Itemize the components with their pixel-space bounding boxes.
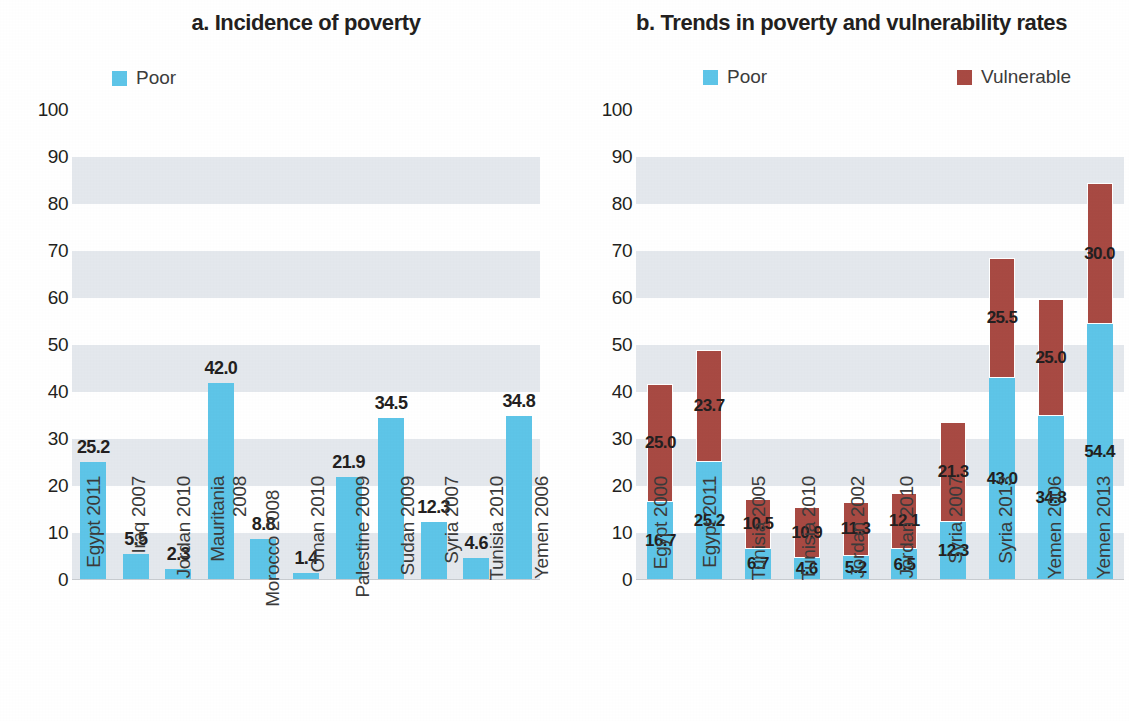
x-axis-label: Morocco 2008 <box>262 490 284 607</box>
y-axis-tick: 30 <box>612 428 632 450</box>
x-axis-label: Tunisia 2010 <box>798 476 820 581</box>
y-axis-tick: 60 <box>48 287 68 309</box>
x-axis-label: Tunisia 2010 <box>486 476 508 581</box>
x-axis-label: Jordan 2010 <box>896 476 918 578</box>
y-axis-tick: 40 <box>48 381 68 403</box>
x-label-slot: Yemen 2013 <box>1080 470 1129 620</box>
y-axis-tick: 0 <box>622 569 632 591</box>
bar-value-label-vulnerable: 25.0 <box>1035 348 1066 368</box>
x-axis-label: Egypt 2011 <box>83 476 105 568</box>
panel-a-incidence-of-poverty: a. Incidence of poverty Poor 10090807060… <box>0 0 564 721</box>
x-label-slot: Jordan 2010 <box>882 470 931 620</box>
panel-a-legend: Poor <box>0 66 564 90</box>
legend-swatch-vulnerable-icon <box>957 70 972 85</box>
legend-label-poor: Poor <box>136 67 176 89</box>
panel-a-y-axis: 1009080706050403020100 <box>40 110 70 580</box>
x-axis-label: Yemen 2013 <box>1093 476 1115 579</box>
x-axis-label: Syria 2007 <box>945 476 967 564</box>
bar-value-label-vulnerable: 30.0 <box>1084 244 1115 264</box>
y-axis-tick: 80 <box>612 193 632 215</box>
y-axis-tick: 70 <box>48 240 68 262</box>
legend-item-vulnerable: Vulnerable <box>957 66 1071 88</box>
x-axis-label: Jordan 2002 <box>847 476 869 578</box>
x-label-slot: Tunisia 2005 <box>735 470 784 620</box>
bar-value-label-vulnerable: 25.5 <box>987 308 1018 328</box>
panel-b-title: b. Trends in poverty and vulnerability r… <box>564 10 1129 36</box>
legend-label-poor: Poor <box>727 66 767 88</box>
panel-b-trends-poverty-vulnerability: b. Trends in poverty and vulnerability r… <box>564 0 1129 721</box>
y-axis-tick: 100 <box>38 99 68 121</box>
x-label-slot: Tunisia 2010 <box>475 470 520 620</box>
y-axis-tick: 20 <box>612 475 632 497</box>
x-axis-label: Syria 2007 <box>441 476 463 564</box>
x-label-slot: Yemen 2006 <box>1030 470 1079 620</box>
y-axis-tick: 90 <box>612 146 632 168</box>
legend-item-poor: Poor <box>703 66 767 88</box>
panel-a-x-axis-labels: Egypt 2011Iraq 2007Jordan 2010Mauritania… <box>72 470 564 620</box>
panel-b-x-axis-labels: Egypt 2000Egypt 2011Tunisia 2005Tunisia … <box>636 470 1129 620</box>
x-axis-label: Yemen 2006 <box>1044 476 1066 579</box>
x-label-slot: Egypt 2011 <box>72 470 117 620</box>
x-label-slot: Yemen 2006 <box>519 470 564 620</box>
y-axis-tick: 0 <box>58 569 68 591</box>
x-label-slot: Oman 2010 <box>296 470 341 620</box>
legend-swatch-poor-icon <box>112 71 127 86</box>
legend-item-poor: Poor <box>112 67 176 89</box>
bar-segment-vulnerable[interactable]: 25.0 <box>1038 299 1064 417</box>
x-label-slot: Jordan 2010 <box>161 470 206 620</box>
x-axis-label: Yemen 2006 <box>531 476 553 579</box>
x-label-slot: Iraq 2007 <box>117 470 162 620</box>
x-label-slot: Jordan 2002 <box>833 470 882 620</box>
x-axis-label: Egypt 2000 <box>650 476 672 569</box>
bar-value-label-vulnerable: 25.0 <box>645 433 676 453</box>
bar-value-label: 25.2 <box>77 437 110 458</box>
y-axis-tick: 90 <box>48 146 68 168</box>
x-label-slot: Egypt 2000 <box>636 470 685 620</box>
y-axis-tick: 50 <box>612 334 632 356</box>
bar-value-label: 34.5 <box>375 393 408 414</box>
x-axis-label: Tunisia 2005 <box>748 476 770 581</box>
x-axis-label: Syria 2013 <box>995 476 1017 564</box>
y-axis-tick: 30 <box>48 428 68 450</box>
y-axis-tick: 20 <box>48 475 68 497</box>
bar-value-label-vulnerable: 23.7 <box>694 396 725 416</box>
y-axis-tick: 100 <box>602 99 632 121</box>
y-axis-tick: 80 <box>48 193 68 215</box>
bar-value-label-poor: 54.4 <box>1084 442 1115 462</box>
y-axis-tick: 50 <box>48 334 68 356</box>
x-label-slot: Sudan 2009 <box>385 470 430 620</box>
bar-value-label: 34.8 <box>502 391 535 412</box>
x-label-slot: Mauritania 2008 <box>206 470 251 620</box>
figure-two-panel-poverty-charts: a. Incidence of poverty Poor 10090807060… <box>0 0 1129 721</box>
panel-b-y-axis: 1009080706050403020100 <box>604 110 634 580</box>
x-axis-label: Iraq 2007 <box>128 476 150 554</box>
y-axis-tick: 60 <box>612 287 632 309</box>
panel-a-title: a. Incidence of poverty <box>0 10 564 36</box>
x-label-slot: Tunisia 2010 <box>784 470 833 620</box>
x-label-slot: Morocco 2008 <box>251 470 296 620</box>
x-axis-label: Sudan 2009 <box>397 476 419 576</box>
panel-b-legend: Poor Vulnerable <box>564 66 1129 90</box>
y-axis-tick: 40 <box>612 381 632 403</box>
x-label-slot: Syria 2007 <box>932 470 981 620</box>
x-axis-label: Palestine 2009 <box>352 476 374 598</box>
x-label-slot: Syria 2013 <box>981 470 1030 620</box>
legend-label-vulnerable: Vulnerable <box>981 66 1071 88</box>
y-axis-tick: 10 <box>612 522 632 544</box>
bar-segment-vulnerable[interactable]: 30.0 <box>1087 183 1113 324</box>
bar-segment-vulnerable[interactable]: 23.7 <box>696 350 722 461</box>
x-axis-label: Mauritania 2008 <box>207 476 251 562</box>
y-axis-tick: 10 <box>48 522 68 544</box>
bar-segment-vulnerable[interactable]: 25.5 <box>989 258 1015 378</box>
x-axis-label: Jordan 2010 <box>173 476 195 578</box>
x-label-slot: Egypt 2011 <box>685 470 734 620</box>
x-label-slot: Palestine 2009 <box>340 470 385 620</box>
x-axis-label: Oman 2010 <box>307 476 329 573</box>
x-label-slot: Syria 2007 <box>430 470 475 620</box>
x-axis-label: Egypt 2011 <box>699 476 721 568</box>
bar-value-label: 42.0 <box>205 358 238 379</box>
legend-swatch-poor-icon <box>703 70 718 85</box>
y-axis-tick: 70 <box>612 240 632 262</box>
